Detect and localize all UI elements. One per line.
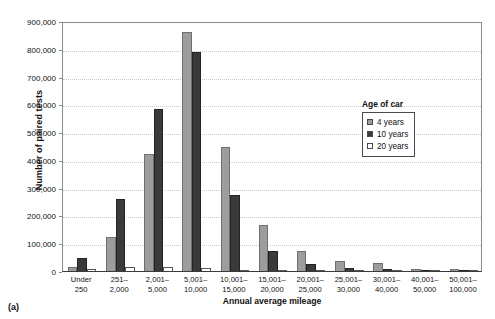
bar	[411, 269, 421, 272]
bar	[354, 270, 364, 272]
figure-panel-a: Number of paired tests 0100,000200,00030…	[0, 0, 495, 319]
bar	[230, 195, 240, 271]
y-tick-mark	[59, 272, 62, 273]
y-tick-label: 300,000	[27, 184, 56, 193]
bar	[430, 270, 440, 272]
legend: 4 years10 years20 years	[362, 112, 415, 157]
y-tick-label: 900,000	[27, 18, 56, 27]
x-tick-label: 50,001–100,000	[440, 275, 486, 294]
legend-item-label: 4 years	[377, 118, 404, 127]
bar-series-layer	[63, 23, 481, 271]
bar	[392, 270, 402, 272]
y-tick-label: 200,000	[27, 212, 56, 221]
x-axis-title: Annual average mileage	[62, 296, 482, 306]
legend-item-label: 20 years	[377, 142, 408, 151]
bar	[163, 267, 173, 271]
x-tick-label-line: 50,001–	[440, 275, 486, 285]
y-tick-label: 700,000	[27, 73, 56, 82]
bar	[125, 267, 135, 271]
bar-group	[63, 23, 101, 271]
bar	[383, 269, 393, 271]
y-tick-label: 400,000	[27, 156, 56, 165]
bar	[268, 251, 278, 271]
bar	[77, 258, 87, 271]
legend-swatch-icon	[367, 119, 373, 125]
bar	[469, 270, 479, 272]
bar-group	[139, 23, 177, 271]
bar	[68, 267, 78, 271]
bar	[116, 199, 126, 271]
y-axis-tick-labels: 0100,000200,000300,000400,000500,000600,…	[0, 0, 62, 319]
legend-swatch-icon	[367, 143, 373, 149]
legend-item: 20 years	[367, 140, 408, 152]
bar-group	[445, 23, 483, 271]
bar	[421, 270, 431, 272]
bar	[345, 268, 355, 271]
bar-group	[216, 23, 254, 271]
bar	[106, 237, 116, 271]
bar	[297, 251, 307, 271]
bar	[154, 109, 164, 271]
legend-swatch-icon	[367, 131, 373, 137]
y-tick-label: 100,000	[27, 240, 56, 249]
bar-group	[254, 23, 292, 271]
bar	[373, 263, 383, 271]
bar	[144, 154, 154, 271]
bar	[182, 32, 192, 271]
legend-item: 4 years	[367, 116, 408, 128]
bar	[278, 270, 288, 272]
y-tick-label: 600,000	[27, 101, 56, 110]
legend-item: 10 years	[367, 128, 408, 140]
plot-area	[62, 22, 482, 272]
bar-group	[178, 23, 216, 271]
y-tick-label: 800,000	[27, 45, 56, 54]
bar	[87, 269, 97, 272]
bar	[221, 147, 231, 271]
bar	[201, 268, 211, 271]
legend-item-label: 10 years	[377, 130, 408, 139]
bar	[240, 270, 250, 272]
legend-title: Age of car	[362, 99, 442, 109]
bar	[259, 225, 269, 271]
bar	[459, 270, 469, 272]
x-tick-label-line: 100,000	[440, 285, 486, 295]
bar	[335, 261, 345, 271]
bar	[192, 52, 202, 271]
y-tick-label: 500,000	[27, 129, 56, 138]
bar-group	[292, 23, 330, 271]
panel-caption: (a)	[8, 302, 19, 312]
bar	[306, 264, 316, 271]
bar	[316, 270, 326, 272]
bar	[450, 269, 460, 271]
bar-group	[101, 23, 139, 271]
y-tick-label: 0	[52, 268, 56, 277]
